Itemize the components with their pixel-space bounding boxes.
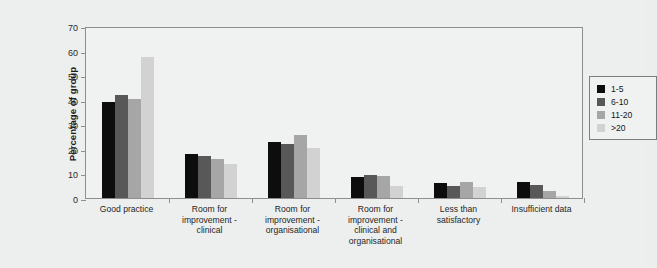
bar — [224, 164, 237, 198]
bar — [530, 185, 543, 199]
bar — [185, 154, 198, 198]
plot-area: Percentage of group 706050403020100 1-56… — [85, 27, 583, 199]
legend-item: 1-5 — [597, 82, 650, 95]
bar — [198, 156, 211, 199]
bar — [473, 187, 486, 198]
bar — [268, 142, 281, 199]
legend-swatch-icon — [597, 98, 605, 106]
bar — [390, 186, 403, 198]
legend-item-label: 11-20 — [611, 110, 632, 120]
legend-item-label: 6-10 — [611, 97, 628, 107]
y-axis-tick-label: 30 — [52, 121, 78, 131]
y-axis-tick-label: 50 — [52, 72, 78, 82]
y-axis-tick-label: 60 — [52, 48, 78, 58]
y-axis-tick-mark — [81, 200, 86, 201]
y-axis-tick-label: 70 — [52, 23, 78, 33]
bar-group — [501, 28, 584, 198]
bar-group — [252, 28, 335, 198]
bar-group — [335, 28, 418, 198]
legend-item: 6-10 — [597, 95, 650, 108]
legend-item-label: >20 — [611, 123, 626, 133]
bar-group — [418, 28, 501, 198]
bar — [307, 148, 320, 198]
bar — [447, 186, 460, 198]
x-axis-category-label: Good practice — [85, 204, 168, 215]
legend-swatch-icon — [597, 85, 605, 93]
bar-group — [169, 28, 252, 198]
x-axis-category-label: Room for improvement - clinical — [168, 204, 251, 236]
legend-item: 11-20 — [597, 108, 650, 121]
bar — [294, 135, 307, 198]
bar — [211, 159, 224, 198]
x-axis-category-label: Room for improvement - clinical and orga… — [334, 204, 417, 246]
y-axis-tick-label: 10 — [52, 170, 78, 180]
legend-swatch-icon — [597, 111, 605, 119]
y-axis-tick-label: 20 — [52, 146, 78, 156]
legend-swatch-icon — [597, 124, 605, 132]
x-axis-category-label: Room for improvement - organisational — [251, 204, 334, 236]
bar — [517, 182, 530, 198]
bar — [434, 183, 447, 198]
x-axis-tick-mark — [584, 198, 585, 203]
bar — [115, 95, 128, 198]
bar — [460, 182, 473, 198]
x-axis-tick-mark — [335, 198, 336, 203]
bar — [543, 191, 556, 198]
bar — [102, 102, 115, 198]
legend-item-label: 1-5 — [611, 84, 623, 94]
x-axis-tick-mark — [501, 198, 502, 203]
bar — [128, 99, 141, 199]
x-axis-tick-mark — [418, 198, 419, 203]
bar-group — [86, 28, 169, 198]
bar — [281, 144, 294, 198]
legend: 1-56-1011-20>20 — [589, 76, 657, 140]
legend-item: >20 — [597, 121, 650, 134]
y-axis-tick-label: 0 — [52, 195, 78, 205]
bar — [351, 177, 364, 198]
x-axis-tick-mark — [252, 198, 253, 203]
x-axis-category-label: Less than satisfactory — [417, 204, 500, 225]
bar — [364, 175, 377, 198]
bar — [141, 57, 154, 198]
y-axis-tick-label: 40 — [52, 97, 78, 107]
x-axis-tick-mark — [169, 198, 170, 203]
bar — [377, 176, 390, 198]
bar — [556, 196, 569, 198]
x-axis-category-label: Insufficient data — [500, 204, 583, 215]
